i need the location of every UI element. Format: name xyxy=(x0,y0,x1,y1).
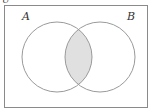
venn-diagram: U A B xyxy=(0,0,149,110)
set-b-label: B xyxy=(126,10,135,23)
set-a-label: A xyxy=(21,10,30,23)
universe-label: U xyxy=(2,0,10,5)
